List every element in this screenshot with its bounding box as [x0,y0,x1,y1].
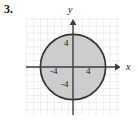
x-axis-label: x [126,61,130,72]
plot-area [26,18,120,115]
problem-number-label: 3. [4,2,13,16]
y-axis-label: y [68,4,72,15]
tick-label-x-negative: -4 [50,66,58,76]
coordinate-plane-svg [26,18,120,115]
tick-label-y-negative: -4 [61,79,69,89]
figure-container: 3. y x 4 4 -4 -4 [0,0,138,135]
tick-label-y-positive: 4 [64,38,69,48]
tick-label-x-positive: 4 [86,66,91,76]
